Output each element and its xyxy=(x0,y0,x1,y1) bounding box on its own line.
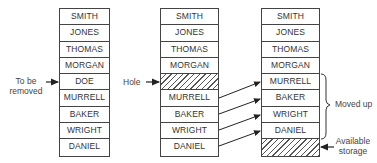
arrow-move-icon xyxy=(219,82,260,98)
brace-icon xyxy=(321,74,330,139)
arrow-move-icon xyxy=(219,99,260,114)
arrows-overlay xyxy=(0,0,377,163)
arrow-move-icon xyxy=(219,115,260,130)
arrow-move-icon xyxy=(219,131,260,146)
